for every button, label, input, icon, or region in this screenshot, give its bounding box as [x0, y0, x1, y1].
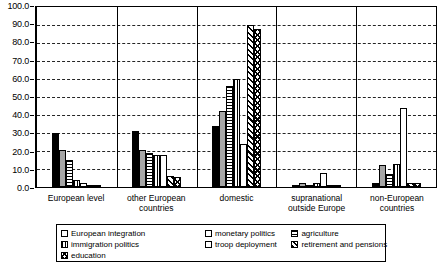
bar [254, 29, 261, 187]
y-tick-mark [30, 152, 34, 153]
bar [334, 185, 341, 187]
y-tick-label: 30.0 [12, 129, 29, 138]
y-tick-mark [30, 24, 34, 25]
x-axis-label: domestic [196, 191, 276, 217]
bar [174, 177, 181, 187]
bar [379, 165, 386, 187]
bar [52, 133, 59, 187]
y-tick-mark [30, 61, 34, 62]
bar-groups [37, 7, 436, 187]
legend-label: retirement and pensions [301, 239, 387, 250]
legend-swatch-icon [291, 241, 298, 248]
bar [226, 86, 233, 187]
bar [306, 185, 313, 187]
y-tick-label: 100.0 [7, 2, 29, 11]
bar [386, 174, 393, 187]
legend-swatch-icon [205, 230, 212, 237]
y-tick-mark [30, 97, 34, 98]
plot-area [37, 7, 436, 187]
y-tick-label: 40.0 [12, 111, 29, 120]
y-tick-mark [30, 133, 34, 134]
bar [146, 153, 153, 187]
bar [212, 126, 219, 187]
bar [400, 108, 407, 187]
y-tick-mark [30, 79, 34, 80]
y-tick-label: 10.0 [12, 165, 29, 174]
y-tick-mark [30, 188, 34, 189]
bar [132, 131, 139, 187]
bar [87, 185, 94, 187]
gridline [37, 187, 436, 188]
legend-item: agriculture [291, 228, 381, 239]
y-axis: 0.010.020.030.040.050.060.070.080.090.01… [0, 6, 34, 188]
y-tick-mark [30, 6, 34, 7]
legend-label: monetary politics [215, 228, 275, 239]
legend-swatch-icon [61, 252, 68, 259]
legend-label: immigration politics [71, 239, 139, 250]
y-tick-mark [30, 42, 34, 43]
bar [160, 155, 167, 187]
legend-item: European integration [61, 228, 205, 239]
bar [327, 185, 334, 187]
y-tick-label: 50.0 [12, 93, 29, 102]
y-tick-mark [30, 115, 34, 116]
legend-swatch-icon [61, 241, 68, 248]
bar [167, 176, 174, 187]
bar [59, 150, 66, 187]
y-tick-label: 60.0 [12, 74, 29, 83]
legend-swatch-icon [61, 230, 68, 237]
x-axis-label: supranational outside Europe [277, 191, 357, 217]
y-tick-label: 80.0 [12, 38, 29, 47]
y-tick-label: 20.0 [12, 147, 29, 156]
bar [372, 183, 379, 188]
bar [414, 183, 421, 187]
bar [139, 150, 146, 187]
legend-item: education [61, 250, 205, 261]
bar-group [356, 7, 436, 187]
bar [219, 111, 226, 187]
bar [393, 164, 400, 187]
legend-swatch-icon [205, 241, 212, 248]
bar [73, 180, 80, 187]
y-tick-label: 0.0 [17, 184, 29, 193]
bar [153, 155, 160, 187]
bar [292, 185, 299, 187]
legend-label: European integration [71, 228, 145, 239]
bar [66, 160, 73, 187]
x-axis: European levelother European countriesdo… [36, 191, 437, 217]
bar [407, 183, 414, 187]
legend-item: retirement and pensions [291, 239, 381, 250]
legend-label: education [71, 250, 106, 261]
legend-label: troop deployment [215, 239, 277, 250]
legend-label: agriculture [301, 228, 338, 239]
bar [299, 183, 306, 187]
bar-chart: 0.010.020.030.040.050.060.070.080.090.01… [0, 0, 443, 268]
legend-item: troop deployment [205, 239, 291, 250]
legend-item: immigration politics [61, 239, 205, 250]
bar [320, 173, 327, 187]
bar [94, 185, 101, 187]
bar [233, 79, 240, 187]
plot-frame [36, 6, 437, 188]
y-tick-mark [30, 170, 34, 171]
bar-group [276, 7, 356, 187]
y-tick-label: 70.0 [12, 56, 29, 65]
chart-legend: European integrationmonetary politicsagr… [56, 224, 386, 262]
bar [80, 183, 87, 187]
bar-group [37, 7, 117, 187]
bar-group [117, 7, 197, 187]
bar [313, 183, 320, 188]
legend-item: monetary politics [205, 228, 291, 239]
legend-swatch-icon [291, 230, 298, 237]
x-axis-label: European level [36, 191, 116, 217]
bar [247, 25, 254, 187]
x-axis-label: non-European countries [357, 191, 437, 217]
y-tick-label: 90.0 [12, 20, 29, 29]
bar [240, 144, 247, 187]
x-axis-label: other European countries [116, 191, 196, 217]
bar-group [197, 7, 277, 187]
